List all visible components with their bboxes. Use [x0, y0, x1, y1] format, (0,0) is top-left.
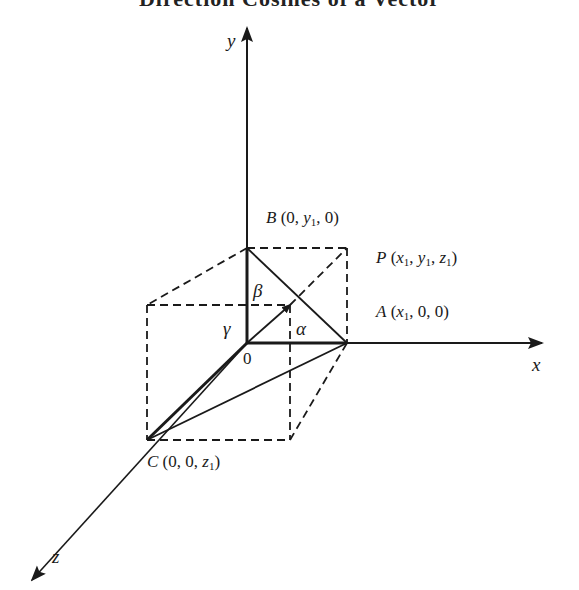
angle-gamma-label: γ: [223, 318, 231, 340]
y-axis-label: y: [227, 30, 235, 52]
angle-beta-label: β: [253, 280, 262, 302]
z-axis-label: z: [52, 546, 59, 568]
point-B-label: B (0, y1, 0): [266, 208, 339, 228]
point-P-label: P (x1, y1, z1): [376, 248, 457, 268]
point-C-label: C (0, 0, z1): [147, 452, 220, 472]
origin-label: 0: [243, 349, 252, 369]
x-axis-label: x: [532, 354, 540, 376]
point-A-label: A (x1, 0, 0): [376, 302, 449, 322]
coordinate-diagram: [0, 0, 579, 590]
segment-OC: [147, 343, 247, 440]
vector-OP: [247, 305, 290, 343]
angle-alpha-label: α: [296, 318, 306, 340]
